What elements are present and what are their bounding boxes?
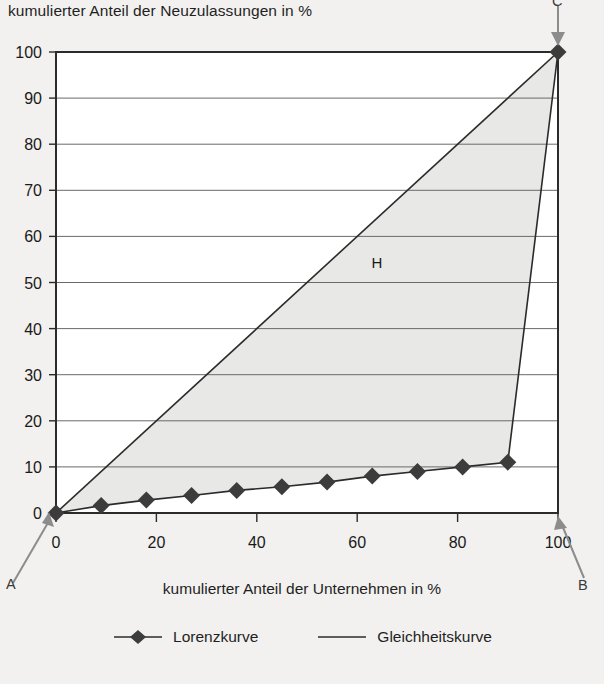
area-label-h: H (372, 254, 383, 271)
lorenz-curve-figure: kumulierter Anteil der Neuzulassungen in… (0, 0, 604, 684)
x-tick-label-20: 20 (148, 534, 166, 551)
y-tick-label-40: 40 (24, 321, 42, 338)
y-tick-label-70: 70 (24, 182, 42, 199)
plain-line-marker-icon (316, 629, 368, 645)
y-tick-label-0: 0 (33, 505, 42, 522)
diamond-line-marker-icon (112, 629, 164, 645)
x-tick-label-0: 0 (52, 534, 61, 551)
y-tick-label-80: 80 (24, 136, 42, 153)
x-axis-ticks (56, 513, 558, 522)
y-tick-label-30: 30 (24, 367, 42, 384)
corner-arrow-c (551, 6, 565, 46)
legend-item-lorenzkurve[interactable]: Lorenzkurve (112, 628, 258, 646)
corner-arrow-a (13, 512, 54, 583)
y-axis-ticks (49, 52, 56, 513)
corner-label-c: C (552, 0, 562, 9)
chart-legend: Lorenzkurve Gleichheitskurve (0, 628, 604, 646)
y-tick-label-20: 20 (24, 413, 42, 430)
legend-label-lorenzkurve: Lorenzkurve (173, 628, 258, 646)
x-tick-label-60: 60 (348, 534, 366, 551)
y-axis-tick-labels: 0102030405060708090100 (15, 44, 42, 522)
y-tick-label-90: 90 (24, 90, 42, 107)
x-axis-tick-labels: 020406080100 (52, 534, 572, 551)
x-tick-label-80: 80 (449, 534, 467, 551)
x-tick-label-40: 40 (248, 534, 266, 551)
y-tick-label-60: 60 (24, 228, 42, 245)
y-tick-label-50: 50 (24, 275, 42, 292)
legend-item-gleichheitskurve[interactable]: Gleichheitskurve (316, 628, 492, 646)
legend-label-gleichheitskurve: Gleichheitskurve (377, 628, 492, 646)
y-tick-label-10: 10 (24, 459, 42, 476)
y-tick-label-100: 100 (15, 44, 42, 61)
x-axis-title: kumulierter Anteil der Unternehmen in % (0, 580, 604, 598)
